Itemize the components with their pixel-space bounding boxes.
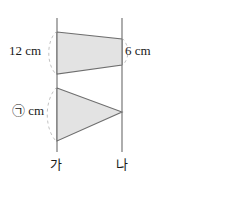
- measure-label-right-top: 6 cm: [125, 44, 151, 57]
- dashed-arc-top-height: [49, 31, 57, 75]
- figure-root: 12 cm 6 cm ㉠ cm 가 나: [0, 0, 237, 217]
- axis-label-ga: 가: [50, 158, 62, 171]
- dashed-arc-bottom-height: [47, 87, 57, 142]
- shape-top-trapezoid: [57, 32, 122, 74]
- measure-label-left-bottom: ㉠ cm: [12, 104, 44, 117]
- answer-row: ( ): [0, 186, 237, 214]
- shape-bottom-triangle: [57, 88, 122, 141]
- axis-label-na: 나: [116, 158, 128, 171]
- measure-label-left-top: 12 cm: [9, 44, 41, 57]
